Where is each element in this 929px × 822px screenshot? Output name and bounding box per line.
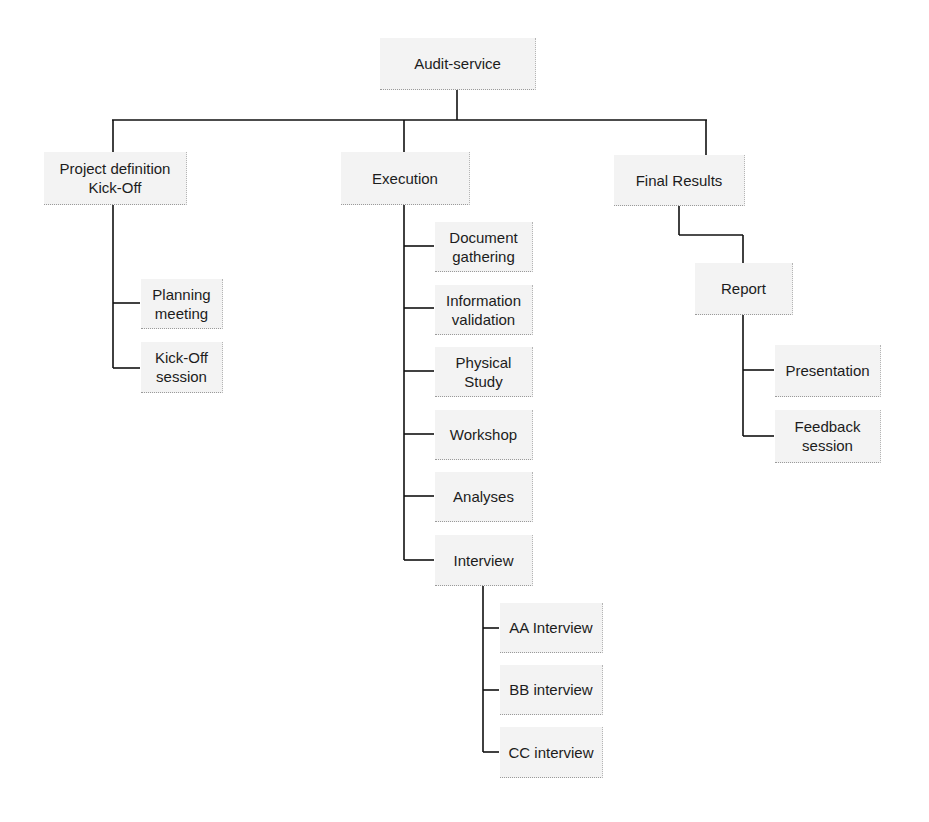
node-cc-interview: CC interview: [500, 727, 603, 778]
node-document-gathering: Document gathering: [435, 222, 533, 272]
node-physical-study: Physical Study: [435, 347, 533, 397]
node-final-results: Final Results: [614, 155, 745, 206]
node-report: Report: [695, 263, 793, 315]
node-aa-interview: AA Interview: [500, 603, 603, 653]
node-planning-meeting: Planning meeting: [141, 279, 223, 329]
node-kick-off-session: Kick-Off session: [141, 342, 223, 393]
node-feedback-session: Feedback session: [775, 410, 881, 463]
node-information-validation: Information validation: [435, 285, 533, 335]
node-workshop: Workshop: [435, 410, 533, 460]
node-audit-service: Audit-service: [380, 38, 536, 90]
node-bb-interview: BB interview: [500, 665, 603, 715]
node-interview: Interview: [435, 535, 533, 586]
node-analyses: Analyses: [435, 472, 533, 522]
node-presentation: Presentation: [775, 345, 881, 397]
audit-service-tree-diagram: Audit-service Project definition Kick-Of…: [0, 0, 929, 822]
node-project-definition-kick-off: Project definition Kick-Off: [44, 152, 187, 205]
node-execution: Execution: [341, 152, 470, 205]
